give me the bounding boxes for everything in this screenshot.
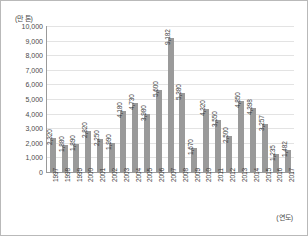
- bar[interactable]: [203, 109, 209, 172]
- bar[interactable]: [144, 114, 150, 172]
- x-tick-slot: 2001: [93, 174, 105, 214]
- bar-value-label: 5,380: [175, 85, 182, 101]
- bar-slot: 5,600: [153, 26, 165, 172]
- bar[interactable]: [120, 111, 126, 172]
- y-axis-tick: 0: [39, 169, 43, 176]
- x-tick-slot: 2012: [223, 174, 235, 214]
- bar-value-label: 4,850: [234, 92, 241, 108]
- y-axis-tick: 8,000: [25, 52, 43, 59]
- bar[interactable]: [262, 124, 268, 172]
- x-tick-slot: 2004: [129, 174, 141, 214]
- y-axis-tick: 3,000: [25, 125, 43, 132]
- bar[interactable]: [168, 38, 174, 172]
- bar[interactable]: [132, 103, 138, 172]
- x-tick-slot: 1998: [58, 174, 70, 214]
- y-axis-tick: 9,000: [25, 37, 43, 44]
- y-axis-tick: 4,000: [25, 110, 43, 117]
- bar-value-label: 1,990: [105, 134, 112, 150]
- x-tick-slot: 1999: [70, 174, 82, 214]
- bar-value-label: 3,257: [258, 116, 265, 132]
- x-tick-slot: 2013: [235, 174, 247, 214]
- y-axis-tick: 7,000: [25, 66, 43, 73]
- y-axis-tick: 2,000: [25, 139, 43, 146]
- bar-value-label: 4,320: [199, 100, 206, 116]
- bar-slot: 2,250: [94, 26, 106, 172]
- bar-value-label: 5,600: [152, 81, 159, 97]
- bar-value-label: 2,500: [222, 127, 229, 143]
- x-tick-slot: 2015: [259, 174, 271, 214]
- y-axis-tick: 6,000: [25, 81, 43, 88]
- x-tick-slot: 2005: [141, 174, 153, 214]
- x-axis-title: (연도): [276, 212, 293, 222]
- x-tick-slot: 2003: [117, 174, 129, 214]
- x-tick-slot: 2008: [176, 174, 188, 214]
- y-axis-tick: 5,000: [25, 96, 43, 103]
- bar-slot: 4,730: [129, 26, 141, 172]
- x-tick-slot: 2017: [282, 174, 294, 214]
- x-tick-slot: 2000: [81, 174, 93, 214]
- bar-value-label: 1,482: [281, 141, 288, 157]
- bar-value-label: 4,180: [116, 102, 123, 118]
- plot-area: 10,0009,0008,0007,0006,0005,0004,0003,00…: [46, 26, 294, 173]
- x-tick-slot: 2002: [105, 174, 117, 214]
- x-axis-tick-labels: 1997199819992000200120022003200420052006…: [46, 174, 294, 214]
- x-tick-slot: 1997: [46, 174, 58, 214]
- bar-value-label: 9,182: [164, 29, 171, 45]
- bar-value-label: 2,320: [46, 129, 53, 145]
- bar-value-label: 1,235: [269, 145, 276, 161]
- x-tick-slot: 2010: [200, 174, 212, 214]
- chart-figure: (만 톤) 10,0009,0008,0007,0006,0005,0004,0…: [0, 0, 308, 236]
- bar-slot: 1,482: [282, 26, 294, 172]
- x-tick-slot: 2011: [211, 174, 223, 214]
- bar[interactable]: [156, 90, 162, 172]
- x-tick-slot: 2016: [270, 174, 282, 214]
- bar-slot: 3,550: [212, 26, 224, 172]
- bar[interactable]: [215, 120, 221, 172]
- y-axis-tick: 10,000: [22, 23, 43, 30]
- bar-slot: 1,890: [71, 26, 83, 172]
- y-axis-unit-label: (만 톤): [15, 13, 33, 23]
- x-tick-slot: 2007: [164, 174, 176, 214]
- x-tick-slot: 2009: [188, 174, 200, 214]
- bar-value-label: 2,820: [81, 122, 88, 138]
- y-axis-tick: 1,000: [25, 154, 43, 161]
- bar-slot: 3,980: [141, 26, 153, 172]
- bar-value-label: 1,670: [187, 139, 194, 155]
- bar-value-label: 3,980: [140, 105, 147, 121]
- bar-value-label: 1,880: [58, 136, 65, 152]
- bar[interactable]: [179, 93, 185, 172]
- bar-value-label: 4,730: [128, 94, 135, 110]
- bar-value-label: 4,398: [246, 99, 253, 115]
- bar-value-label: 2,250: [93, 130, 100, 146]
- bar-slot: 2,820: [82, 26, 94, 172]
- bar-slot: 4,398: [247, 26, 259, 172]
- x-tick-slot: 2014: [247, 174, 259, 214]
- bar-value-label: 3,550: [211, 111, 218, 127]
- x-axis-tick: 2017: [288, 168, 295, 182]
- bar-slot: 2,320: [47, 26, 59, 172]
- bar-series: 2,3201,8801,8902,8202,2501,9904,1804,730…: [47, 26, 294, 172]
- bar-slot: 1,990: [106, 26, 118, 172]
- bar-value-label: 1,890: [69, 136, 76, 152]
- bar-slot: 4,320: [200, 26, 212, 172]
- bar[interactable]: [238, 101, 244, 172]
- bar[interactable]: [250, 108, 256, 172]
- x-tick-slot: 2006: [152, 174, 164, 214]
